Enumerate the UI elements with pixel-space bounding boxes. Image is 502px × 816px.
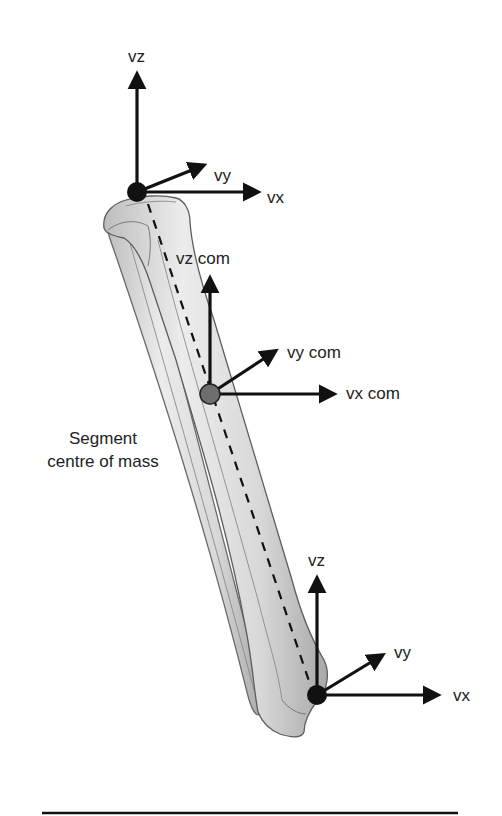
distal-vx-label: vx [453,686,471,705]
com-marker [200,384,220,404]
distal-joint-marker [307,685,327,705]
com-vz-label: vz com [176,249,230,268]
proximal-joint-vectors: vz vy vx [127,47,285,207]
com-vx-label: vx com [346,384,400,403]
com-caption-line2: centre of mass [47,452,159,471]
com-caption-line1: Segment [69,429,137,448]
proximal-vy-label: vy [214,166,232,185]
com-vy-label: vy com [287,343,341,362]
proximal-joint-marker [127,182,147,202]
com-vectors: vz com vy com vx com [176,249,400,404]
proximal-vy-arrow [137,166,202,192]
proximal-vz-label: vz [128,47,145,66]
distal-vy-label: vy [394,643,412,662]
distal-joint-vectors: vz vy vx [307,551,471,705]
distal-vz-label: vz [308,551,325,570]
biomechanics-diagram: vz vy vx vz com vy com vx com Segment ce… [0,0,502,816]
proximal-vx-label: vx [267,188,285,207]
